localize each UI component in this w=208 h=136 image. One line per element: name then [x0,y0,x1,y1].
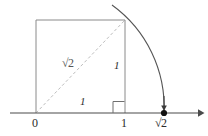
axis-arrowhead-icon [198,109,205,117]
right-angle-mark [113,102,125,114]
axis-label-origin: 0 [32,117,38,129]
axis-label-sqrt2-text: √2 [155,116,167,130]
vertical-side-label: 1 [114,60,120,71]
axis-label-sqrt2: √2 [155,117,167,129]
horizontal-side-label: 1 [80,96,86,107]
diagonal-length-text: √2 [62,56,74,70]
axis-label-one: 1 [121,117,127,129]
compass-arc [112,5,164,113]
sqrt2-construction-diagram: √2 1 1 0 1 √2 [0,0,208,136]
diagonal-length-label: √2 [62,57,74,69]
sqrt2-pointer-arrow-icon [161,96,167,111]
